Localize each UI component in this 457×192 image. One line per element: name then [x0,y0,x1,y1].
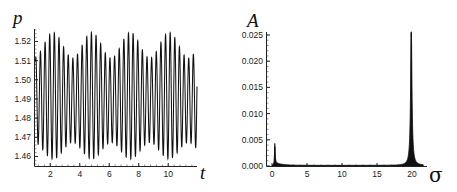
y-tick-label: 0.020 [242,56,264,66]
y-tick-label: 0.000 [242,161,264,171]
y-tick-label: 1.48 [14,113,31,123]
y-tick-label: 0.025 [242,30,264,40]
x-tick-label: 6 [107,169,112,179]
x-tick-label: 8 [136,169,141,179]
y-tick-label: 1.49 [14,94,31,104]
spectrum-panel: A σ 0.0000.0050.0100.0150.0200.025051015… [242,10,443,187]
figure: p t 1.461.471.481.491.501.511.52246810 A… [0,0,457,192]
spectrum-trace [272,32,423,166]
x-tick-label: 10 [337,169,347,179]
y-tick-label: 1.50 [14,75,31,85]
x-axis-title-t: t [200,162,206,183]
time-series-trace [36,33,198,159]
x-tick-label: 2 [48,169,53,179]
y-tick-label: 0.010 [242,109,264,119]
x-tick-label: 10 [164,169,174,179]
x-axis-title-sigma: σ [429,163,443,187]
y-axis-title-p: p [11,7,23,28]
x-tick-label: 0 [270,169,275,179]
x-tick-label: 5 [305,169,310,179]
x-tick-label: 15 [372,169,382,179]
time-series-panel: p t 1.461.471.481.491.501.511.52246810 [11,7,206,183]
y-tick-label: 1.46 [14,151,31,161]
x-tick-label: 4 [77,169,82,179]
right-axis-ticks: 0.0000.0050.0100.0150.0200.02505101520 [242,30,419,179]
y-tick-label: 0.015 [242,82,264,92]
p-signal-line [36,33,198,159]
x-tick-label: 20 [407,169,417,179]
y-axis-title-A: A [245,10,259,31]
y-tick-label: 1.51 [14,56,31,66]
y-tick-label: 1.52 [14,36,31,46]
y-tick-label: 1.47 [14,132,31,142]
amplitude-spectrum-fill [272,32,423,166]
y-tick-label: 0.005 [242,135,264,145]
